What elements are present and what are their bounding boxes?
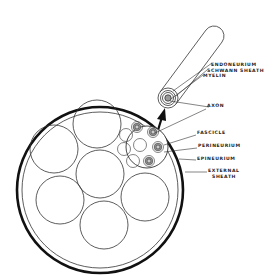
label-myelin: MYELIN (203, 73, 226, 78)
label-epineurium: EPINEURIUM (197, 156, 235, 161)
label-axon: AXON (207, 103, 224, 108)
label-external-sheath-2: SHEATH (212, 174, 236, 179)
label-fascicle: FASCICLE (197, 130, 226, 135)
nerve-cross-section (17, 100, 183, 273)
label-endoneurium: ENDONEURIUM (211, 62, 257, 67)
label-perineurium: PERINEURIUM (198, 143, 241, 148)
nerve-fiber-cylinder (158, 26, 224, 108)
nerve-diagram: ENDONEURIUM SCHWANN SHEATH MYELIN AXON F… (0, 0, 270, 277)
fascicle-detail (118, 122, 169, 169)
label-external-sheath-1: EXTERNAL (208, 168, 240, 173)
